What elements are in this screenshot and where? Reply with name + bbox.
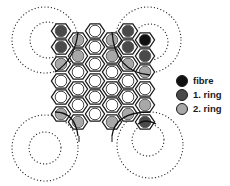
empty-core xyxy=(55,91,67,103)
ring2-core xyxy=(106,116,118,128)
empty-core xyxy=(72,99,84,111)
ring1-core xyxy=(122,25,134,37)
ring1-swatch-icon xyxy=(176,89,188,101)
empty-core xyxy=(106,66,118,78)
legend: fibre 1. ring 2. ring xyxy=(176,74,222,116)
dotted-circle xyxy=(12,115,78,181)
fibre-swatch-icon xyxy=(176,75,188,87)
legend-label: fibre xyxy=(193,75,214,86)
empty-core xyxy=(89,25,101,37)
ring2-core xyxy=(139,66,151,78)
empty-core xyxy=(89,58,101,70)
legend-label: 2. ring xyxy=(193,103,222,114)
ring1-core xyxy=(139,50,151,62)
empty-core xyxy=(89,108,101,120)
fibre-core xyxy=(139,34,151,46)
empty-core xyxy=(55,75,67,87)
legend-label: 1. ring xyxy=(193,89,222,100)
ring2-core xyxy=(139,99,151,111)
legend-item-ring1: 1. ring xyxy=(176,88,222,101)
empty-core xyxy=(106,83,118,95)
empty-core xyxy=(139,83,151,95)
empty-core xyxy=(72,83,84,95)
empty-core xyxy=(122,75,134,87)
empty-core xyxy=(89,41,101,53)
hexagon-grid xyxy=(51,24,154,129)
ring2-swatch-icon xyxy=(176,103,188,115)
legend-item-fibre: fibre xyxy=(176,74,222,87)
dotted-circle xyxy=(29,132,61,164)
empty-core xyxy=(89,91,101,103)
ring1-core xyxy=(122,41,134,53)
empty-core xyxy=(89,75,101,87)
empty-core xyxy=(122,91,134,103)
empty-core xyxy=(72,66,84,78)
legend-item-ring2: 2. ring xyxy=(176,102,222,115)
empty-core xyxy=(106,99,118,111)
ring1-core xyxy=(55,25,67,37)
ring1-core xyxy=(55,41,67,53)
ring2-core xyxy=(72,50,84,62)
